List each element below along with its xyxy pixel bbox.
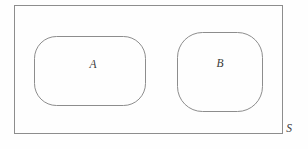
set-a-label: A [88, 58, 97, 70]
set-b-label: B [216, 57, 223, 69]
universe-rectangle [15, 6, 283, 134]
universe-label: S [286, 122, 292, 134]
set-diagram-figure: A B S [0, 0, 308, 149]
set-b-shape [178, 33, 263, 112]
diagram-canvas: A B S [0, 0, 308, 149]
set-a-shape [35, 37, 146, 106]
